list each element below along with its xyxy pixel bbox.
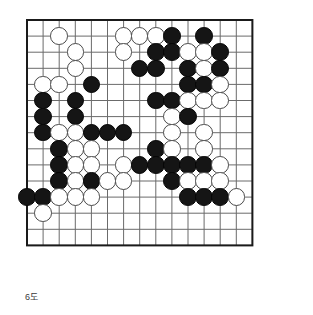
- white-stone[interactable]: [50, 27, 68, 45]
- white-stone[interactable]: [179, 43, 197, 61]
- white-stone[interactable]: [211, 92, 229, 110]
- black-stone[interactable]: [147, 60, 165, 78]
- white-stone[interactable]: [195, 60, 213, 78]
- white-stone[interactable]: [211, 76, 229, 94]
- black-stone[interactable]: [163, 43, 181, 61]
- go-board[interactable]: [22, 15, 292, 287]
- white-stone[interactable]: [195, 140, 213, 158]
- black-stone[interactable]: [163, 172, 181, 190]
- white-stone[interactable]: [115, 27, 133, 45]
- white-stone[interactable]: [179, 92, 197, 110]
- white-stone[interactable]: [83, 140, 101, 158]
- black-stone[interactable]: [163, 92, 181, 110]
- black-stone[interactable]: [179, 108, 197, 126]
- white-stone[interactable]: [195, 172, 213, 190]
- black-stone[interactable]: [211, 60, 229, 78]
- black-stone[interactable]: [147, 43, 165, 61]
- white-stone[interactable]: [50, 76, 68, 94]
- black-stone[interactable]: [131, 60, 149, 78]
- black-stone[interactable]: [83, 124, 101, 142]
- white-stone[interactable]: [195, 43, 213, 61]
- white-stone[interactable]: [67, 124, 85, 142]
- black-stone[interactable]: [195, 27, 213, 45]
- black-stone[interactable]: [67, 92, 85, 110]
- white-stone[interactable]: [179, 172, 197, 190]
- black-stone[interactable]: [179, 156, 197, 174]
- white-stone[interactable]: [195, 124, 213, 142]
- white-stone[interactable]: [163, 140, 181, 158]
- white-stone[interactable]: [195, 92, 213, 110]
- white-stone[interactable]: [50, 124, 68, 142]
- black-stone[interactable]: [115, 124, 133, 142]
- white-stone[interactable]: [67, 172, 85, 190]
- white-stone[interactable]: [211, 172, 229, 190]
- white-stone[interactable]: [83, 156, 101, 174]
- black-stone[interactable]: [195, 188, 213, 206]
- white-stone[interactable]: [115, 156, 133, 174]
- white-stone[interactable]: [67, 140, 85, 158]
- white-stone[interactable]: [115, 172, 133, 190]
- white-stone[interactable]: [163, 108, 181, 126]
- black-stone[interactable]: [163, 156, 181, 174]
- black-stone[interactable]: [195, 156, 213, 174]
- black-stone[interactable]: [34, 188, 52, 206]
- white-stone[interactable]: [67, 60, 85, 78]
- black-stone[interactable]: [34, 124, 52, 142]
- white-stone[interactable]: [115, 43, 133, 61]
- white-stone[interactable]: [99, 172, 117, 190]
- black-stone[interactable]: [163, 27, 181, 45]
- white-stone[interactable]: [50, 188, 68, 206]
- white-stone[interactable]: [34, 76, 52, 94]
- go-diagram-figure: 6도: [0, 0, 313, 315]
- black-stone[interactable]: [211, 188, 229, 206]
- white-stone[interactable]: [147, 27, 165, 45]
- white-stone[interactable]: [34, 204, 52, 222]
- black-stone[interactable]: [147, 156, 165, 174]
- black-stone[interactable]: [195, 76, 213, 94]
- white-stone[interactable]: [67, 156, 85, 174]
- white-stone[interactable]: [163, 124, 181, 142]
- white-stone[interactable]: [131, 27, 149, 45]
- black-stone[interactable]: [50, 172, 68, 190]
- black-stone[interactable]: [83, 76, 101, 94]
- black-stone[interactable]: [179, 188, 197, 206]
- black-stone[interactable]: [34, 108, 52, 126]
- black-stone[interactable]: [179, 76, 197, 94]
- stone-layer[interactable]: [22, 15, 292, 287]
- black-stone[interactable]: [147, 92, 165, 110]
- white-stone[interactable]: [67, 188, 85, 206]
- black-stone[interactable]: [99, 124, 117, 142]
- black-stone[interactable]: [34, 92, 52, 110]
- black-stone[interactable]: [147, 140, 165, 158]
- black-stone[interactable]: [67, 108, 85, 126]
- black-stone[interactable]: [131, 156, 149, 174]
- black-stone[interactable]: [18, 188, 36, 206]
- black-stone[interactable]: [211, 43, 229, 61]
- black-stone[interactable]: [50, 140, 68, 158]
- black-stone[interactable]: [179, 60, 197, 78]
- white-stone[interactable]: [83, 188, 101, 206]
- white-stone[interactable]: [211, 156, 229, 174]
- white-stone[interactable]: [228, 188, 246, 206]
- white-stone[interactable]: [67, 43, 85, 61]
- black-stone[interactable]: [50, 156, 68, 174]
- black-stone[interactable]: [83, 172, 101, 190]
- figure-caption: 6도: [25, 292, 38, 303]
